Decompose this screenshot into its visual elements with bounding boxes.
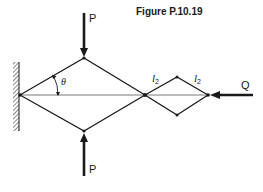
load-label-top: P (89, 13, 96, 24)
link-length-label-left: l2 (152, 73, 159, 85)
load-label-right: Q (241, 80, 250, 91)
truss-diagram: Figure P.10.19 P P Q θ l2 l2 (0, 0, 263, 192)
large-rhombus-linkage (20, 58, 145, 131)
link-length-label-right: l2 (194, 73, 201, 85)
link-length-subscript: 2 (155, 78, 159, 85)
angle-label: θ (61, 77, 66, 87)
fixed-wall-support (13, 62, 19, 131)
load-arrow-bottom (80, 133, 88, 176)
figure-title: Figure P.10.19 (136, 6, 203, 17)
link-length-subscript: 2 (197, 78, 201, 85)
load-label-bottom: P (89, 164, 96, 175)
pin-joints (18, 56, 210, 132)
load-arrow-right (210, 91, 253, 99)
diagram-canvas (0, 0, 263, 192)
load-arrow-top (80, 13, 88, 57)
